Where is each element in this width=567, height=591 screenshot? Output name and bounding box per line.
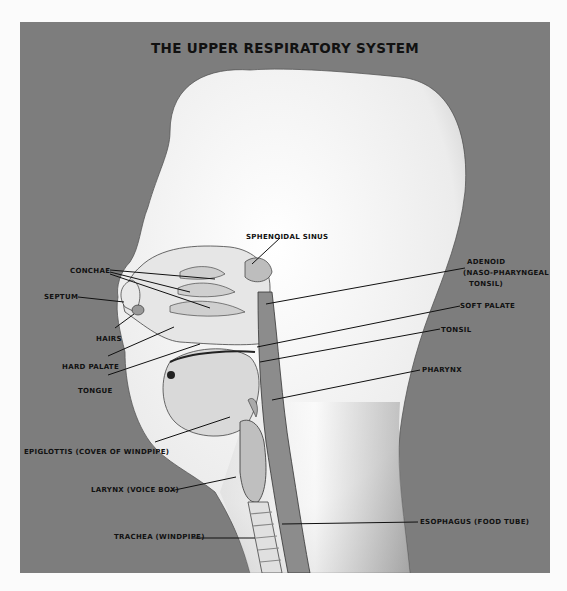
label-conchae: CONCHAE <box>70 267 110 276</box>
label-hairs: HAIRS <box>96 335 122 344</box>
label-esophagus: ESOPHAGUS (FOOD TUBE) <box>420 518 529 527</box>
label-septum: SEPTUM <box>44 293 78 302</box>
label-sphenoidal-sinus: SPHENOIDAL SINUS <box>246 233 328 242</box>
label-soft-palate: SOFT PALATE <box>460 302 515 311</box>
label-adenoid: ADENOID <box>467 258 505 267</box>
diagram-panel: THE UPPER RESPIRATORY SYSTEM SPHENOIDAL … <box>20 22 550 573</box>
label-epiglottis: EPIGLOTTIS (COVER OF WINDPIPE) <box>24 448 169 457</box>
label-adenoid-line2: (NASO-PHARYNGEAL <box>463 269 549 278</box>
label-adenoid-line3: TONSIL) <box>469 280 503 289</box>
diagram-title: THE UPPER RESPIRATORY SYSTEM <box>20 40 550 56</box>
label-larynx: LARYNX (VOICE BOX) <box>91 486 179 495</box>
label-tongue: TONGUE <box>78 387 113 396</box>
label-trachea: TRACHEA (WINDPIPE) <box>114 533 205 542</box>
label-tonsil: TONSIL <box>441 326 472 335</box>
label-pharynx: PHARYNX <box>422 366 462 375</box>
label-hard-palate: HARD PALATE <box>62 363 119 372</box>
